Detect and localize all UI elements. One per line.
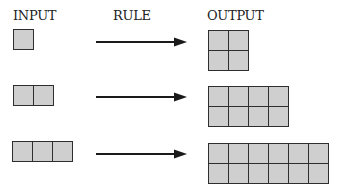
grid-cell [269,107,288,126]
grid-cell [249,87,268,106]
grid-cell [209,31,228,50]
grid-cell [249,107,268,126]
arrow-right-icon [96,36,188,48]
rule-header: RULE [113,9,151,23]
grid-cell [289,164,308,183]
grid-cell [13,142,32,161]
grid-cell [209,87,228,106]
grid-cell [53,142,72,161]
grid-cell [229,51,248,70]
grid-cell [269,87,288,106]
input-grid-1x1 [13,29,34,50]
input-header: INPUT [13,9,56,23]
grid-cell [33,142,52,161]
arrow-right-icon [96,91,188,103]
grid-cell [209,107,228,126]
grid-cell [209,144,228,163]
grid-cell [249,144,268,163]
output-grid-2x2 [208,30,249,71]
output-grid-6x2 [208,143,329,184]
grid-cell [209,164,228,183]
grid-cell [229,107,248,126]
grid-cell [14,30,33,49]
arrow-right-icon [96,148,188,160]
grid-cell [289,144,308,163]
grid-cell [269,144,288,163]
grid-cell [229,144,248,163]
grid-cell [209,51,228,70]
grid-cell [14,86,33,105]
grid-cell [269,164,288,183]
grid-cell [229,87,248,106]
grid-cell [309,144,328,163]
input-grid-2x1 [13,85,54,106]
grid-cell [34,86,53,105]
grid-cell [229,31,248,50]
output-grid-4x2 [208,86,289,127]
output-header: OUTPUT [207,9,264,23]
grid-cell [249,164,268,183]
grid-cell [229,164,248,183]
input-grid-3x1 [12,141,73,162]
grid-cell [309,164,328,183]
